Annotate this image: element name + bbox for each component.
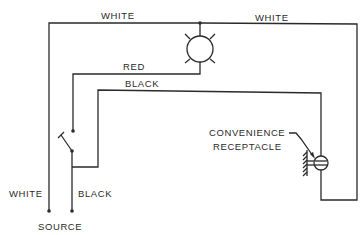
label-receptacle-2: RECEPTACLE	[213, 141, 282, 152]
ground-icon	[303, 150, 307, 176]
label-black-top: BLACK	[125, 78, 159, 89]
source-terminal-black	[70, 209, 74, 213]
label-red: RED	[123, 61, 145, 72]
label-left-white: WHITE	[9, 188, 43, 199]
red-wire	[73, 62, 200, 131]
wiring-diagram: WHITE WHITE RED BLACK CONVENIENCE RECEPT…	[0, 0, 363, 235]
switch-terminal-top	[71, 129, 75, 133]
label-receptacle-1: CONVENIENCE	[209, 127, 285, 138]
label-bottom-black: BLACK	[78, 188, 112, 199]
white-wire-right	[200, 23, 357, 200]
receptacle-leader	[289, 133, 313, 156]
source-terminal-white	[47, 209, 51, 213]
switch-icon	[58, 132, 74, 153]
lamp-icon	[185, 34, 215, 63]
receptacle-icon	[307, 156, 328, 170]
label-top-right-white: WHITE	[255, 12, 289, 23]
label-source: SOURCE	[38, 221, 82, 232]
label-top-left-white: WHITE	[101, 10, 135, 21]
